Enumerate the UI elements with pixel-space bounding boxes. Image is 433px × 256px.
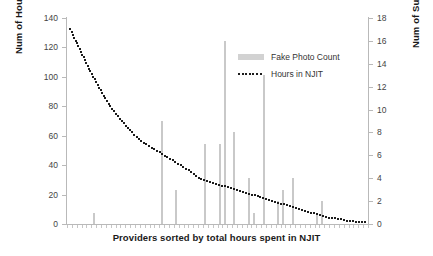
line-dot xyxy=(301,209,303,211)
line-dot xyxy=(87,65,89,67)
x-tick-mark xyxy=(101,225,102,228)
line-dot xyxy=(316,213,318,215)
x-tick-mark xyxy=(285,225,286,228)
line-dot xyxy=(79,48,81,50)
y-tick-label-left: 40 xyxy=(24,160,58,170)
y-tick-label-left: 20 xyxy=(24,190,58,200)
y-tick-label-left: 80 xyxy=(24,101,58,111)
legend-item-hours-in-njit: Hours in NJIT xyxy=(238,65,340,82)
x-tick-mark xyxy=(227,225,228,228)
y-tick-label-right: 12 xyxy=(377,82,386,92)
line-dot xyxy=(292,206,294,208)
line-dot xyxy=(212,182,214,184)
x-tick-mark xyxy=(213,225,214,228)
line-dot xyxy=(364,221,366,223)
x-tick-mark xyxy=(247,225,248,228)
x-tick-mark xyxy=(130,225,131,228)
x-tick-mark xyxy=(174,225,175,228)
x-tick-mark xyxy=(169,225,170,228)
y-tick-mark-right xyxy=(369,132,373,133)
y-tick-label-right: 10 xyxy=(377,105,386,115)
x-tick-mark xyxy=(135,225,136,228)
line-dot xyxy=(72,34,74,36)
line-dot xyxy=(304,210,306,212)
x-tick-mark xyxy=(242,225,243,228)
x-tick-mark xyxy=(251,225,252,228)
x-tick-mark xyxy=(111,225,112,228)
y-tick-mark-right xyxy=(369,64,373,65)
line-dot xyxy=(295,207,297,209)
line-dot xyxy=(298,208,300,210)
x-tick-mark xyxy=(125,225,126,228)
x-tick-mark xyxy=(271,225,272,228)
y-tick-label-right: 6 xyxy=(377,150,382,160)
line-dot xyxy=(227,186,229,188)
line-dot xyxy=(203,179,205,181)
legend-swatch-dotted-line-icon xyxy=(238,71,264,77)
line-dot xyxy=(239,190,241,192)
y-tick-mark-right xyxy=(369,110,373,111)
line-dot xyxy=(94,78,96,80)
line-dot xyxy=(283,203,285,205)
legend-label-fake-photo-count: Fake Photo Count xyxy=(271,52,340,62)
y-tick-mark-left xyxy=(62,106,66,107)
line-dot xyxy=(262,197,264,199)
line-dot xyxy=(91,73,93,75)
x-tick-mark xyxy=(266,225,267,228)
y-tick-mark-left xyxy=(62,18,66,19)
x-tick-mark xyxy=(222,225,223,228)
line-dot xyxy=(313,212,315,214)
y-tick-mark-right xyxy=(369,87,373,88)
line-dot xyxy=(77,45,79,47)
x-tick-mark xyxy=(82,225,83,228)
y-tick-label-right: 0 xyxy=(377,219,382,229)
x-tick-mark xyxy=(281,225,282,228)
x-tick-mark xyxy=(145,225,146,228)
line-dot xyxy=(233,188,235,190)
x-tick-mark xyxy=(339,225,340,228)
x-tick-mark xyxy=(184,225,185,228)
x-tick-mark xyxy=(154,225,155,228)
line-dot xyxy=(257,195,259,197)
x-tick-mark xyxy=(67,225,68,228)
line-dot xyxy=(271,200,273,202)
line-dot xyxy=(98,87,100,89)
x-tick-mark xyxy=(310,225,311,228)
x-tick-mark xyxy=(106,225,107,228)
line-dot xyxy=(245,192,247,194)
y-tick-label-left: 140 xyxy=(24,13,58,23)
line-dot xyxy=(221,185,223,187)
line-dot xyxy=(209,181,211,183)
line-dot xyxy=(97,84,99,86)
y-tick-label-right: 2 xyxy=(377,196,382,206)
y-tick-label-right: 8 xyxy=(377,127,382,137)
y-tick-mark-left xyxy=(62,195,66,196)
line-dot xyxy=(200,178,202,180)
y-tick-label-right: 4 xyxy=(377,173,382,183)
x-tick-mark xyxy=(77,225,78,228)
line-dot xyxy=(85,62,87,64)
line-dot xyxy=(101,92,103,94)
x-tick-mark xyxy=(237,225,238,228)
y-axis-right-line xyxy=(368,17,369,225)
line-dot xyxy=(206,180,208,182)
x-tick-mark xyxy=(72,225,73,228)
x-tick-mark xyxy=(91,225,92,228)
y-tick-label-right: 16 xyxy=(377,36,386,46)
line-dot xyxy=(343,219,345,221)
line-dot xyxy=(76,42,78,44)
line-dot xyxy=(84,59,86,61)
x-tick-mark xyxy=(218,225,219,228)
line-dot xyxy=(349,220,351,222)
line-dot xyxy=(289,205,291,207)
x-tick-mark xyxy=(150,225,151,228)
line-dot xyxy=(236,189,238,191)
x-tick-mark xyxy=(315,225,316,228)
line-dot xyxy=(337,218,339,220)
line-dot xyxy=(361,221,363,223)
line-dot xyxy=(251,194,253,196)
y-tick-mark-left xyxy=(62,165,66,166)
line-dot xyxy=(331,217,333,219)
x-tick-mark xyxy=(120,225,121,228)
y-tick-label-right: 14 xyxy=(377,59,386,69)
